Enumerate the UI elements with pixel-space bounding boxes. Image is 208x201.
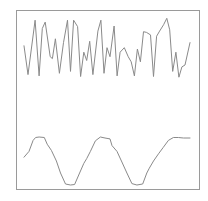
series-line-noisy-signal [24,18,190,77]
chart-canvas [0,0,208,201]
plot-frame [17,11,200,190]
series-layer [24,18,190,185]
series-line-periodic-signal [24,137,190,185]
